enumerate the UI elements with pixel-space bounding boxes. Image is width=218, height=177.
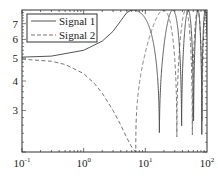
y-tick-label: 3 — [13, 104, 19, 116]
legend-label-signal-1: Signal 1 — [59, 15, 95, 27]
y-tick-label: 6 — [13, 33, 19, 45]
y-tick-label: 5 — [13, 52, 19, 64]
y-tick-label: 4 — [13, 75, 19, 87]
x-tick-label: 102 — [200, 156, 215, 169]
x-tick-label: 101 — [138, 156, 153, 169]
x-tick-label: 10-1 — [14, 156, 31, 169]
chart: 3456710-1100101102 Signal 1 Signal 2 — [0, 0, 218, 177]
y-tick-label: 7 — [13, 18, 19, 30]
legend-label-signal-2: Signal 2 — [59, 29, 95, 41]
x-tick-label: 100 — [76, 156, 91, 169]
legend: Signal 1 Signal 2 — [27, 14, 97, 42]
